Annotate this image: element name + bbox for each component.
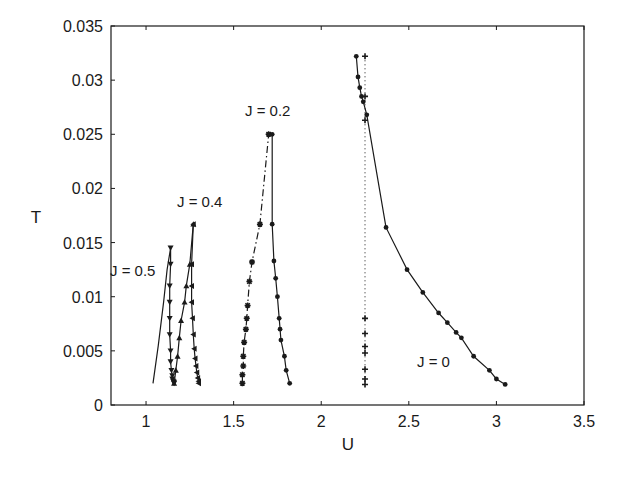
asterisk-marker bbox=[241, 339, 247, 345]
series-0 bbox=[153, 248, 171, 383]
series-layer bbox=[153, 53, 508, 387]
series-6 bbox=[354, 54, 508, 387]
plus-marker bbox=[362, 376, 368, 382]
asterisk-marker bbox=[246, 279, 252, 285]
asterisk-marker bbox=[244, 315, 250, 321]
dot-marker bbox=[487, 368, 492, 373]
y-tick-label: 0.025 bbox=[63, 126, 103, 143]
series-line bbox=[153, 248, 171, 383]
plus-marker bbox=[362, 331, 368, 337]
axis-ticks: 11.522.533.500.0050.010.0150.020.0250.03… bbox=[63, 18, 595, 430]
y-tick-label: 0.01 bbox=[72, 289, 103, 306]
inverted-triangle-marker bbox=[168, 359, 174, 364]
label-j04: J = 0.4 bbox=[177, 193, 222, 210]
label-j05: J = 0.5 bbox=[110, 262, 155, 279]
dot-marker bbox=[282, 354, 287, 359]
inverted-triangle-marker bbox=[168, 348, 174, 353]
x-tick-label: 1.5 bbox=[223, 413, 245, 430]
y-axis-label: T bbox=[31, 208, 41, 227]
dot-marker bbox=[272, 259, 277, 264]
dot-marker bbox=[356, 74, 361, 79]
y-tick-label: 0.035 bbox=[63, 18, 103, 35]
x-tick-label: 1 bbox=[142, 413, 151, 430]
dot-marker bbox=[361, 99, 366, 104]
phase-diagram-chart: 11.522.533.500.0050.010.0150.020.0250.03… bbox=[0, 0, 626, 485]
x-tick-label: 2 bbox=[317, 413, 326, 430]
dot-marker bbox=[454, 330, 459, 335]
dot-marker bbox=[459, 335, 464, 340]
series-1 bbox=[167, 246, 177, 387]
asterisk-marker bbox=[243, 326, 249, 332]
series-line bbox=[242, 134, 268, 383]
inverted-triangle-marker bbox=[167, 300, 173, 305]
series-line bbox=[356, 56, 505, 384]
asterisk-marker bbox=[257, 221, 263, 227]
dot-marker bbox=[405, 267, 410, 272]
series-4 bbox=[239, 131, 271, 386]
asterisk-marker bbox=[245, 302, 251, 308]
inverted-triangle-marker bbox=[168, 246, 174, 251]
dot-marker bbox=[278, 327, 283, 332]
triangle-marker bbox=[178, 318, 184, 323]
dot-marker bbox=[275, 294, 280, 299]
dot-marker bbox=[503, 382, 508, 387]
dot-marker bbox=[270, 132, 275, 137]
label-j02: J = 0.2 bbox=[245, 102, 290, 119]
plus-marker bbox=[362, 315, 368, 321]
plus-marker bbox=[362, 93, 368, 99]
asterisk-marker bbox=[239, 380, 245, 386]
dot-marker bbox=[420, 290, 425, 295]
plot-border bbox=[111, 26, 584, 405]
label-j0: J = 0 bbox=[417, 353, 450, 370]
asterisk-marker bbox=[240, 363, 246, 369]
dot-marker bbox=[284, 368, 289, 373]
dot-marker bbox=[270, 222, 275, 227]
dot-marker bbox=[357, 85, 362, 90]
plus-marker bbox=[362, 53, 368, 59]
asterisk-marker bbox=[249, 259, 255, 265]
dot-marker bbox=[277, 316, 282, 321]
asterisk-marker bbox=[240, 353, 246, 359]
triangle-marker bbox=[183, 283, 189, 288]
dot-marker bbox=[279, 338, 284, 343]
dot-marker bbox=[273, 276, 278, 281]
dot-marker bbox=[471, 354, 476, 359]
x-tick-label: 3 bbox=[492, 413, 501, 430]
y-tick-label: 0.005 bbox=[63, 343, 103, 360]
y-tick-label: 0.02 bbox=[72, 180, 103, 197]
series-3 bbox=[189, 221, 201, 386]
dot-marker bbox=[354, 54, 359, 59]
dot-marker bbox=[287, 381, 292, 386]
asterisk-marker bbox=[239, 372, 245, 378]
y-tick-label: 0 bbox=[94, 397, 103, 414]
plot-frame bbox=[111, 26, 584, 405]
dot-marker bbox=[494, 377, 499, 382]
x-tick-label: 2.5 bbox=[398, 413, 420, 430]
inverted-triangle-marker bbox=[167, 316, 173, 321]
y-tick-label: 0.03 bbox=[72, 72, 103, 89]
dot-marker bbox=[384, 225, 389, 230]
x-axis-label: U bbox=[342, 435, 354, 454]
plus-marker bbox=[362, 381, 368, 387]
inverted-triangle-marker bbox=[167, 283, 173, 288]
triangle-marker bbox=[176, 335, 182, 340]
dot-marker bbox=[436, 311, 441, 316]
y-tick-label: 0.015 bbox=[63, 235, 103, 252]
plus-marker bbox=[362, 344, 368, 350]
plus-marker bbox=[362, 350, 368, 356]
inverted-triangle-marker bbox=[167, 332, 173, 337]
plus-marker bbox=[362, 366, 368, 372]
dot-marker bbox=[445, 320, 450, 325]
x-tick-label: 3.5 bbox=[573, 413, 595, 430]
series-line bbox=[269, 134, 290, 383]
triangle-marker bbox=[182, 299, 188, 304]
triangle-marker bbox=[175, 353, 181, 358]
series-5 bbox=[266, 132, 292, 386]
